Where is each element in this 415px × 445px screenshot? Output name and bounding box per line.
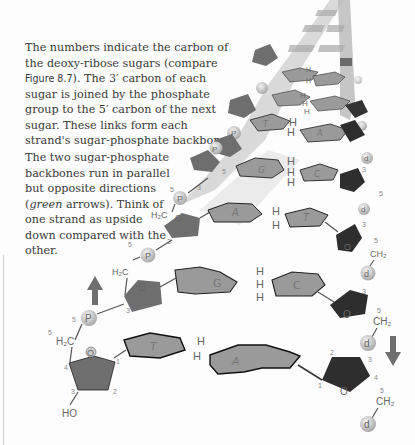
svg-text:P: P	[145, 251, 151, 261]
backbone-ribbons	[180, 0, 355, 225]
base-pair-row-t-a-bottom: H₂C 5 O 4 1 2 3 HO T H H A O 2 3 4 1 5 C…	[48, 324, 394, 432]
svg-text:4: 4	[64, 364, 68, 371]
svg-text:5: 5	[48, 329, 52, 336]
svg-text:3: 3	[126, 307, 130, 314]
svg-text:H₂C: H₂C	[112, 267, 129, 277]
svg-text:3: 3	[362, 221, 366, 228]
svg-text:3: 3	[368, 356, 372, 363]
svg-text:H₂C: H₂C	[56, 336, 74, 347]
svg-text:3: 3	[362, 166, 366, 173]
svg-text:d: d	[364, 338, 370, 349]
left-backbone-lower: P 5 3	[128, 238, 172, 263]
svg-text:5: 5	[128, 241, 132, 248]
svg-text:5: 5	[170, 186, 174, 193]
svg-text:H: H	[272, 219, 280, 231]
svg-text:CH₂: CH₂	[373, 316, 391, 327]
svg-text:CH₂: CH₂	[376, 396, 394, 407]
svg-text:O: O	[340, 386, 348, 397]
svg-text:O: O	[344, 242, 351, 252]
svg-text:O: O	[175, 213, 182, 223]
svg-text:T: T	[303, 212, 310, 223]
svg-text:d: d	[364, 269, 369, 279]
svg-text:A: A	[231, 355, 240, 368]
svg-text:G: G	[213, 277, 222, 290]
svg-text:H₂C: H₂C	[151, 210, 168, 220]
svg-text:d: d	[361, 205, 365, 214]
svg-text:H: H	[193, 350, 201, 362]
svg-text:P: P	[212, 145, 217, 154]
svg-text:5: 5	[374, 237, 378, 244]
arrow-up-icon	[87, 276, 103, 305]
svg-text:O: O	[87, 348, 94, 358]
svg-text:H: H	[306, 66, 311, 73]
left-backbone-bottom: P 5	[72, 304, 124, 326]
svg-text:H: H	[287, 176, 295, 188]
svg-text:CH₂: CH₂	[370, 249, 387, 259]
svg-text:G: G	[258, 165, 265, 175]
svg-text:C: C	[314, 169, 321, 179]
svg-text:5: 5	[222, 168, 226, 175]
svg-text:5: 5	[379, 190, 383, 197]
svg-text:A: A	[316, 129, 322, 138]
svg-text:H: H	[256, 265, 264, 277]
svg-text:5: 5	[377, 307, 381, 314]
svg-text:d: d	[364, 154, 368, 163]
svg-text:3: 3	[362, 288, 366, 295]
svg-text:1: 1	[318, 382, 322, 389]
svg-text:O: O	[138, 282, 146, 293]
svg-text:4: 4	[374, 374, 378, 381]
svg-text:H: H	[256, 291, 264, 303]
svg-text:H: H	[256, 278, 264, 290]
svg-text:P: P	[177, 194, 183, 204]
svg-text:A: A	[231, 207, 239, 218]
svg-text:O: O	[343, 309, 351, 320]
svg-text:H: H	[197, 335, 205, 347]
svg-text:1: 1	[116, 358, 120, 365]
svg-text:C: C	[293, 279, 301, 292]
svg-text:HO: HO	[62, 408, 77, 419]
svg-text:H: H	[306, 77, 311, 84]
arrow-down-icon	[385, 336, 401, 366]
svg-text:2: 2	[330, 349, 334, 356]
dna-double-helix-diagram: H H H H H P T H H A d 5 P	[0, 0, 415, 445]
svg-text:d: d	[364, 419, 370, 430]
svg-text:H: H	[287, 126, 295, 138]
svg-text:2: 2	[113, 388, 117, 395]
svg-text:H: H	[272, 205, 280, 217]
svg-text:P: P	[85, 313, 92, 324]
svg-text:3: 3	[71, 388, 75, 395]
svg-text:5: 5	[380, 387, 384, 394]
svg-text:H: H	[304, 107, 310, 116]
svg-text:5: 5	[72, 316, 76, 323]
